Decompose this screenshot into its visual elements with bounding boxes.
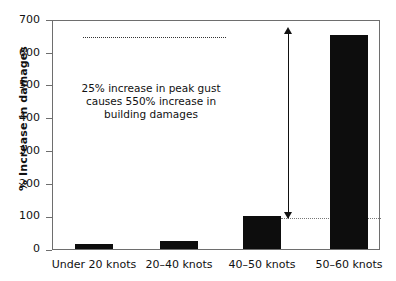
- leader-line-650: [83, 37, 226, 38]
- y-tick-label-0: 0: [0, 244, 40, 254]
- y-tick-label-100: 100: [0, 211, 40, 221]
- y-tick-label-300: 300: [0, 146, 40, 156]
- range-arrow-head-down: [284, 212, 292, 219]
- y-tick-label-700: 700: [0, 15, 40, 25]
- bar-under-20-knots: [75, 244, 113, 249]
- bar-chart-figure: % Increase in damages 700 600 500 400 30…: [0, 0, 396, 281]
- callout-annotation: 25% increase in peak gust causes 550% in…: [76, 82, 226, 121]
- range-arrow-line: [288, 30, 289, 218]
- y-tick-label-200: 200: [0, 179, 40, 189]
- plot-area: [52, 20, 380, 250]
- bar-40-50-knots: [243, 216, 281, 249]
- range-arrow-head-up: [284, 27, 292, 34]
- x-tick-label-50-60-knots: 50–60 knots: [294, 258, 396, 271]
- y-tick-label-600: 600: [0, 48, 40, 58]
- callout-line-1: 25% increase in peak gust: [76, 82, 226, 95]
- y-tick-label-500: 500: [0, 80, 40, 90]
- y-tick-label-400: 400: [0, 113, 40, 123]
- callout-line-2: causes 550% increase in: [76, 95, 226, 108]
- y-tick-mark-0: [46, 250, 52, 251]
- bar-20-40-knots: [160, 241, 198, 249]
- callout-line-3: building damages: [76, 108, 226, 121]
- bar-50-60-knots: [330, 35, 368, 249]
